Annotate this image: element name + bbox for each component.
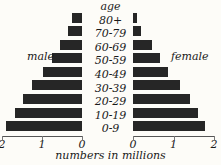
female-bar-20-29: [133, 94, 190, 104]
female-bar-10-19: [133, 108, 198, 118]
male-bar-70-79: [68, 26, 82, 36]
age-group-label-60-69: 60-69: [84, 41, 137, 55]
age-group-label-20-29: 20-29: [84, 95, 137, 109]
female-bar-0-9: [133, 121, 205, 131]
series-label-male: male: [27, 50, 54, 63]
male-bar-0-9: [6, 121, 82, 131]
male-bar-20-29: [23, 94, 82, 104]
series-label-female: female: [171, 50, 209, 63]
age-group-label-50-59: 50-59: [84, 54, 137, 68]
male-bar-30-39: [32, 80, 83, 90]
age-group-label-40-49: 40-49: [84, 68, 137, 82]
age-group-label-80-plus: 80+: [84, 14, 137, 28]
age-group-label-30-39: 30-39: [84, 82, 137, 96]
age-group-label-10-19: 10-19: [84, 109, 137, 123]
male-bar-60-69: [60, 40, 82, 50]
male-bar-40-49: [43, 67, 82, 77]
male-bar-10-19: [15, 108, 82, 118]
female-bar-30-39: [133, 80, 180, 90]
population-pyramid-chart: age 80+ 70-79 60-69 50-59 40-49 30-39 20…: [0, 0, 221, 165]
age-group-label-0-9: 0-9: [84, 122, 137, 136]
female-bar-40-49: [133, 67, 168, 77]
chart-caption: numbers in millions: [0, 149, 221, 162]
male-bar-50-59: [52, 53, 82, 63]
age-group-label-70-79: 70-79: [84, 27, 137, 41]
male-bar-80-plus: [72, 13, 82, 23]
age-label-column: age 80+ 70-79 60-69 50-59 40-49 30-39 20…: [84, 0, 137, 136]
age-axis-title: age: [84, 0, 137, 14]
